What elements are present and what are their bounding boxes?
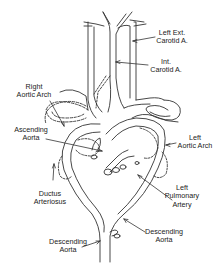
label-line: Carotid A. [150, 37, 194, 45]
label-line: Aorta [12, 134, 50, 142]
label-line: Artery [162, 201, 202, 209]
label-left-pulmonary-artery: Left Pulmonary Artery [162, 184, 202, 209]
label-descending-aorta-right: Descending Aorta [144, 228, 184, 245]
label-left-aortic-arch: Left Aortic Arch [175, 134, 215, 151]
label-line: Aortic Arch [14, 91, 54, 99]
label-ascending-aorta: Ascending Aorta [12, 126, 50, 143]
label-line: Aortic Arch [175, 142, 215, 150]
label-line: Aorta [48, 246, 88, 254]
aortic-arch-diagram: Left Ext. Carotid A. Int. Carotid A. Rig… [0, 0, 222, 263]
label-int-carotid: Int. Carotid A. [146, 58, 186, 75]
carotid-vessels [84, 12, 146, 118]
label-line: Arteriosus [30, 198, 70, 206]
label-line: Aorta [144, 236, 184, 244]
label-line: Carotid A. [146, 66, 186, 74]
label-right-aortic-arch: Right Aortic Arch [14, 83, 54, 100]
label-descending-aorta-left: Descending Aorta [48, 238, 88, 255]
label-left-ext-carotid: Left Ext. Carotid A. [150, 29, 194, 46]
label-ductus-arteriosus: Ductus Arteriosus [30, 190, 70, 207]
